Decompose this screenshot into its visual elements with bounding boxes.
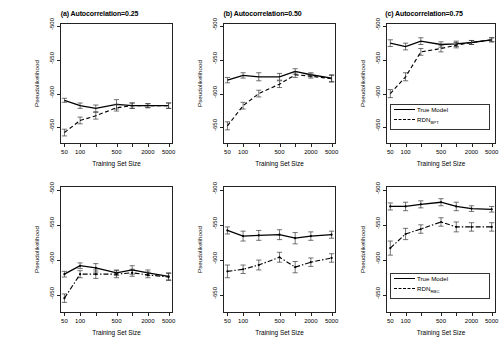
y-tick-label: -650	[49, 282, 55, 304]
x-axis-label: Training Set Size	[60, 329, 173, 336]
y-tick-mark	[57, 127, 60, 128]
x-tick-mark	[390, 313, 391, 316]
x-tick-mark	[332, 313, 333, 316]
x-axis-label: Training Set Size	[386, 329, 496, 336]
x-tick-label: 100	[393, 149, 419, 155]
x-tick-mark	[472, 313, 473, 316]
x-tick-mark	[441, 313, 442, 316]
x-tick-mark	[227, 144, 228, 147]
y-tick-mark	[220, 190, 223, 191]
legend-label-true-model: True Model	[417, 274, 448, 284]
x-tick-mark	[421, 144, 422, 147]
y-tick-mark	[383, 190, 386, 191]
legend-label-rdn: RDNBPT	[417, 115, 439, 128]
x-tick-mark	[80, 313, 81, 316]
y-tick-mark	[220, 225, 223, 226]
y-axis-label: Pseudolikelihood	[196, 23, 203, 144]
y-tick-mark	[57, 60, 60, 61]
y-tick-mark	[57, 260, 60, 261]
y-tick-label: -650	[49, 114, 55, 136]
y-axis-label: Pseudolikelihood	[196, 186, 203, 313]
y-tick-mark	[383, 225, 386, 226]
x-tick-label: 5000	[319, 318, 345, 324]
x-axis-label: Training Set Size	[386, 160, 496, 167]
y-tick-mark	[383, 26, 386, 27]
x-tick-mark	[96, 144, 97, 147]
y-tick-mark	[220, 127, 223, 128]
x-tick-mark	[390, 144, 391, 147]
x-axis-label: Training Set Size	[60, 160, 173, 167]
x-tick-mark	[243, 144, 244, 147]
series-true-model	[225, 227, 334, 244]
x-tick-label: 100	[230, 149, 256, 155]
x-axis-label: Training Set Size	[223, 160, 336, 167]
x-tick-label: 5000	[156, 149, 182, 155]
y-tick-mark	[57, 190, 60, 191]
y-tick-mark	[220, 94, 223, 95]
legend-key-dashed	[394, 119, 415, 122]
x-tick-mark	[132, 144, 133, 147]
x-tick-label: 100	[393, 318, 419, 324]
y-tick-label: -650	[212, 114, 218, 136]
x-tick-label: 5000	[479, 318, 504, 324]
x-tick-mark	[421, 313, 422, 316]
x-tick-mark	[243, 313, 244, 316]
x-tick-mark	[472, 144, 473, 147]
legend-rdn-subscript: BPT	[430, 120, 439, 125]
x-tick-label: 500	[267, 149, 293, 155]
legend-label-rdn: RDNRBC	[417, 284, 440, 297]
y-tick-mark	[57, 94, 60, 95]
y-tick-label: -600	[375, 81, 381, 103]
x-tick-label: 500	[428, 149, 454, 155]
figure-pseudolikelihood-grid: (a) Autocorrelation=0.25 -500-550-600-65…	[0, 0, 504, 349]
y-tick-mark	[57, 26, 60, 27]
x-tick-mark	[280, 144, 281, 147]
y-tick-label: -500	[375, 177, 381, 199]
x-tick-mark	[148, 313, 149, 316]
series-rdn	[225, 72, 334, 130]
legend-label-true-model: True Model	[417, 105, 448, 115]
x-tick-mark	[295, 313, 296, 316]
x-tick-mark	[259, 144, 260, 147]
x-tick-mark	[492, 144, 493, 147]
x-tick-mark	[132, 313, 133, 316]
y-tick-label: -600	[49, 247, 55, 269]
y-tick-label: -500	[212, 13, 218, 35]
y-tick-mark	[220, 60, 223, 61]
y-axis-label: Pseudolikelihood	[33, 186, 40, 313]
y-tick-label: -600	[212, 247, 218, 269]
y-tick-label: -500	[49, 13, 55, 35]
x-tick-mark	[311, 313, 312, 316]
x-tick-label: 5000	[156, 318, 182, 324]
panel-top-right: (c) Autocorrelation=0.75 -500-550-600-65…	[344, 10, 504, 180]
legend-row-rdn: RDNBPT	[391, 115, 489, 125]
x-tick-label: 500	[104, 318, 130, 324]
x-tick-mark	[456, 313, 457, 316]
y-tick-label: -500	[49, 177, 55, 199]
legend-rdn-base: RDN	[417, 116, 430, 123]
y-tick-mark	[57, 295, 60, 296]
y-tick-mark	[57, 225, 60, 226]
y-tick-label: -600	[212, 81, 218, 103]
y-tick-mark	[383, 127, 386, 128]
y-tick-mark	[383, 60, 386, 61]
x-tick-mark	[406, 144, 407, 147]
y-tick-label: -550	[49, 212, 55, 234]
y-tick-label: -550	[375, 212, 381, 234]
y-axis-label: Pseudolikelihood	[359, 23, 366, 144]
panel-bottom-middle: -500-550-600-650Pseudolikelihood50100500…	[181, 180, 344, 349]
x-tick-mark	[456, 144, 457, 147]
x-tick-label: 100	[67, 318, 93, 324]
y-tick-label: -550	[212, 212, 218, 234]
series-true-model	[388, 199, 495, 212]
y-tick-label: -550	[49, 47, 55, 69]
x-tick-mark	[96, 313, 97, 316]
x-tick-label: 500	[104, 149, 130, 155]
y-tick-mark	[383, 94, 386, 95]
y-tick-label: -550	[375, 47, 381, 69]
x-tick-label: 5000	[479, 149, 504, 155]
panel-top-middle: (b) Autocorrelation=0.50 -500-550-600-65…	[181, 10, 344, 180]
panel-top-left: (a) Autocorrelation=0.25 -500-550-600-65…	[18, 10, 181, 180]
y-tick-mark	[220, 295, 223, 296]
y-axis-label: Pseudolikelihood	[33, 23, 40, 144]
